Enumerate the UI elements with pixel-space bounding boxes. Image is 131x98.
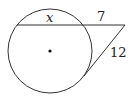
tangent-label: 12 [110,45,127,60]
chord-label: x [46,10,54,25]
external-segment-label: 7 [97,9,105,24]
center-point [48,49,51,52]
geometry-diagram: x 7 12 [0,0,131,98]
